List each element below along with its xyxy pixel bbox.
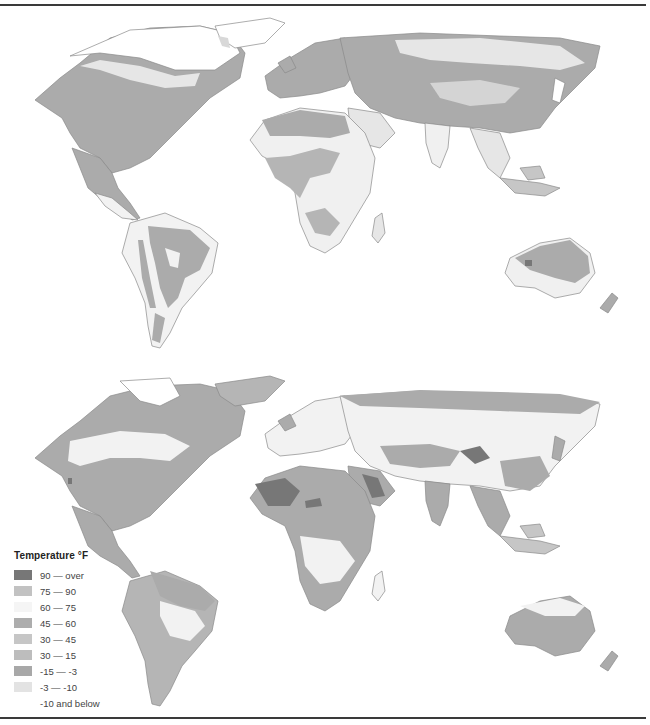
bottom-rule xyxy=(0,717,646,719)
legend-swatch xyxy=(14,570,32,580)
legend-item: -3 — -10 xyxy=(14,679,134,695)
legend-item: 90 — over xyxy=(14,567,134,583)
se-asia xyxy=(470,486,510,536)
legend-label: 75 — 90 xyxy=(40,586,76,597)
legend-swatch xyxy=(14,634,32,644)
legend-item: -15 — -3 xyxy=(14,663,134,679)
top-rule xyxy=(0,4,646,6)
legend-label: 90 — over xyxy=(40,570,84,581)
madagascar xyxy=(372,571,385,601)
legend-label: 30 — 45 xyxy=(40,634,76,645)
map-january-svg xyxy=(0,8,650,353)
legend-label: -10 and below xyxy=(40,698,100,709)
legend-title: Temperature °F xyxy=(14,550,134,561)
world-map-january xyxy=(0,8,650,353)
legend-swatch xyxy=(14,650,32,660)
legend-item: 75 — 90 xyxy=(14,583,134,599)
legend-swatch xyxy=(14,682,32,692)
legend-label: 60 — 75 xyxy=(40,602,76,613)
legend-label: -3 — -10 xyxy=(40,682,77,693)
legend-label: 45 — 60 xyxy=(40,618,76,629)
legend-swatch xyxy=(14,698,32,708)
legend-swatch xyxy=(14,618,32,628)
india xyxy=(425,481,450,526)
legend: Temperature °F 90 — over 75 — 90 60 — 75… xyxy=(14,550,134,711)
legend-swatch xyxy=(14,666,32,676)
legend-item: 45 — 60 xyxy=(14,615,134,631)
legend-swatch xyxy=(14,602,32,612)
madagascar xyxy=(372,213,385,243)
legend-item: 60 — 75 xyxy=(14,599,134,615)
legend-item: -10 and below xyxy=(14,695,134,711)
se-asia xyxy=(470,128,510,178)
legend-swatch xyxy=(14,586,32,596)
legend-item: 30 — 45 xyxy=(14,631,134,647)
legend-label: -15 — -3 xyxy=(40,666,77,677)
india xyxy=(425,123,450,168)
legend-item: 30 — 15 xyxy=(14,647,134,663)
legend-label: 30 — 15 xyxy=(40,650,76,661)
